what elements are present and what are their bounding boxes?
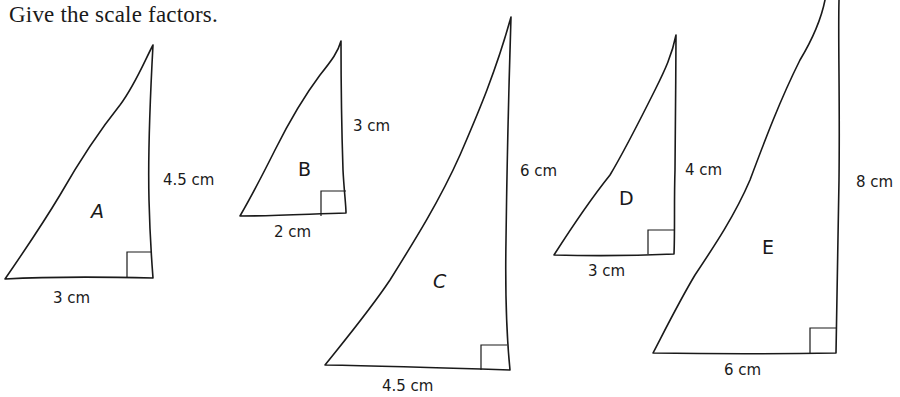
triangle-b-base-label: 2 cm <box>274 223 311 241</box>
triangle-b <box>240 41 346 216</box>
triangle-a <box>5 45 153 279</box>
triangle-c-height-label: 6 cm <box>520 162 557 180</box>
triangle-c-name: C <box>433 270 446 292</box>
right-angle-marker-d <box>648 230 674 254</box>
triangle-e-name: E <box>762 236 774 258</box>
triangle-d-height-label: 4 cm <box>685 161 722 179</box>
triangle-a-base-label: 3 cm <box>53 289 90 307</box>
triangle-d <box>554 35 676 256</box>
triangle-e-base-label: 6 cm <box>724 361 761 379</box>
triangle-b-name: B <box>298 158 311 180</box>
triangle-d-base-label: 3 cm <box>588 262 625 280</box>
triangle-b-height-label: 3 cm <box>353 117 390 135</box>
triangle-a-height-label: 4.5 cm <box>163 171 214 189</box>
triangle-c-base-label: 4.5 cm <box>382 377 433 395</box>
triangle-d-name: D <box>619 187 634 209</box>
right-angle-marker-c <box>481 345 507 370</box>
triangle-e-height-label: 8 cm <box>856 173 893 191</box>
triangles-diagram <box>0 0 900 397</box>
right-angle-marker-b <box>321 191 346 216</box>
triangle-a-name: A <box>91 200 104 222</box>
triangle-e <box>653 0 839 354</box>
right-angle-marker-e <box>810 328 836 353</box>
triangle-c <box>325 17 511 370</box>
right-angle-marker-a <box>127 252 152 278</box>
